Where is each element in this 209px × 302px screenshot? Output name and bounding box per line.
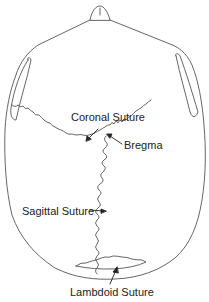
skull-outline bbox=[5, 20, 206, 279]
lambdoid-suture-line bbox=[76, 256, 146, 269]
skull-suture-diagram: Coronal Suture Bregma Sagittal Suture La… bbox=[0, 0, 209, 302]
coronal-suture-label: Coronal Suture bbox=[71, 111, 145, 123]
sagittal-suture-line bbox=[96, 136, 108, 274]
arrow-lambdoid bbox=[110, 267, 118, 284]
bregma-label: Bregma bbox=[124, 139, 163, 151]
lambdoid-suture-label: Lambdoid Suture bbox=[70, 286, 154, 298]
skull-outline-drawing bbox=[0, 0, 209, 302]
right-temporal-line bbox=[175, 54, 198, 117]
arrow-bregma bbox=[107, 134, 122, 144]
left-temporal-line bbox=[11, 58, 31, 120]
sagittal-suture-label: Sagittal Suture bbox=[22, 205, 94, 217]
